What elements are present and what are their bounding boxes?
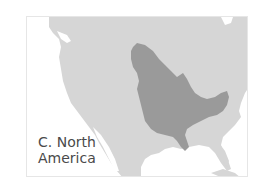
florida-peninsula: [211, 141, 229, 167]
map-figure: C. North America: [0, 0, 268, 194]
region-label-line1: C. North: [38, 134, 96, 150]
region-label: C. North America: [38, 134, 96, 166]
cuba-island: [211, 169, 241, 177]
map-frame: C. North America: [26, 16, 248, 177]
region-label-line2: America: [38, 150, 96, 166]
